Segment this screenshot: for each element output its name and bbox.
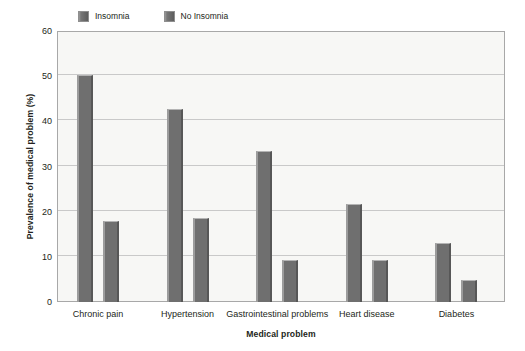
x-axis-tick-labels: Chronic painHypertensionGastrointestinal… xyxy=(57,307,505,323)
gridline xyxy=(58,74,504,75)
gridline xyxy=(58,119,504,120)
bar-chart-figure: Insomnia No Insomnia Prevalence of medic… xyxy=(0,0,525,351)
plot-area xyxy=(57,31,505,302)
legend-item-no-insomnia: No Insomnia xyxy=(164,11,229,22)
chart-legend: Insomnia No Insomnia xyxy=(78,7,228,25)
y-axis-tick-label: 20 xyxy=(30,207,52,217)
y-axis-tick-label: 30 xyxy=(30,162,52,172)
legend-swatch-icon xyxy=(164,11,175,22)
legend-label-no-insomnia: No Insomnia xyxy=(181,12,229,21)
legend-label-insomnia: Insomnia xyxy=(95,12,130,21)
gridline xyxy=(58,165,504,166)
y-axis-tick-labels: 6050403020100 xyxy=(30,31,52,302)
x-axis-title: Medical problem xyxy=(57,329,505,339)
gridline xyxy=(58,255,504,256)
y-axis-tick-label: 40 xyxy=(30,116,52,126)
gridline xyxy=(58,210,504,211)
x-axis-tick-label: Diabetes xyxy=(396,307,516,321)
legend-item-insomnia: Insomnia xyxy=(78,11,130,22)
y-axis-tick-label: 10 xyxy=(30,252,52,262)
y-axis-tick-label: 50 xyxy=(30,71,52,81)
legend-swatch-icon xyxy=(78,11,89,22)
y-axis-tick-label: 60 xyxy=(30,26,52,36)
y-axis-tick-label: 0 xyxy=(30,297,52,307)
